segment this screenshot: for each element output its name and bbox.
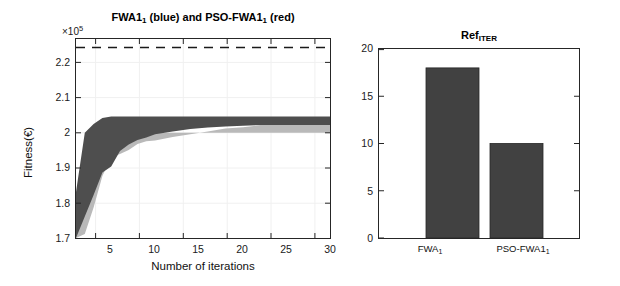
right-ytick-0: 0: [351, 232, 373, 244]
left-plot-area: [75, 38, 331, 239]
left-ytick-3-text: 1.9: [55, 161, 70, 173]
left-title-part2: (blue) and PSO-FWA1: [146, 11, 262, 23]
right-ytick-5-text: 5: [367, 185, 373, 197]
left-ytick-2: 1.8: [34, 197, 70, 209]
right-ytick-15-text: 15: [361, 90, 373, 102]
left-title-part1: FWA1: [111, 11, 142, 23]
cat1-sub: 1: [438, 248, 442, 255]
left-ytick-4: 2: [34, 126, 70, 138]
left-xtick-10: 10: [139, 243, 169, 255]
x-axis-label-text: Number of iterations: [151, 260, 255, 272]
cat2-main: PSO-FWA1: [496, 243, 545, 254]
right-chart-title: RefITER: [378, 29, 580, 43]
right-chart-panel: RefITER 0 5 10 15 20 FWA1 PSO-FWA11: [345, 0, 620, 286]
left-ytick-5: 2.1: [34, 91, 70, 103]
y-axis-label-text: Fitness(€): [22, 127, 34, 178]
left-plot-svg: [76, 39, 330, 238]
right-ytick-10: 10: [351, 137, 373, 149]
left-xtick-20: 20: [227, 243, 257, 255]
exponent-prefix: ×10: [62, 26, 79, 37]
right-title-main: Ref: [461, 29, 479, 41]
right-category-label-2: PSO-FWA11: [473, 243, 573, 255]
left-title-part3: (red): [267, 11, 295, 23]
left-xtick-25-text: 25: [280, 243, 292, 255]
left-chart-panel: FWA11 (blue) and PSO-FWA11 (red) ×105 Fi…: [0, 0, 345, 286]
bar-pso-fwa1: [490, 144, 543, 239]
left-xtick-15-text: 15: [192, 243, 204, 255]
left-xtick-5: 5: [95, 243, 125, 255]
right-plot-svg: [379, 49, 579, 238]
left-xtick-30: 30: [315, 243, 345, 255]
right-ytick-5: 5: [351, 185, 373, 197]
cat2-sub: 1: [546, 248, 550, 255]
left-xtick-15: 15: [183, 243, 213, 255]
left-xtick-20-text: 20: [236, 243, 248, 255]
right-plot-area: [378, 48, 580, 239]
left-x-axis-label: Number of iterations: [75, 260, 331, 272]
left-xtick-25: 25: [271, 243, 301, 255]
band-fwa1: [76, 117, 330, 239]
left-xtick-30-text: 30: [324, 243, 336, 255]
left-ytick-6: 2.2: [34, 56, 70, 68]
right-ytick-20-text: 20: [361, 42, 373, 54]
cat1-main: FWA: [418, 243, 439, 254]
left-chart-title: FWA11 (blue) and PSO-FWA11 (red): [75, 11, 331, 25]
left-ytick-6-text: 2.2: [55, 56, 70, 68]
right-title-sub: ITER: [479, 34, 497, 43]
right-ytick-20: 20: [351, 42, 373, 54]
left-xtick-5-text: 5: [107, 243, 113, 255]
right-ytick-15: 15: [351, 90, 373, 102]
left-ytick-1: 1.7: [34, 232, 70, 244]
right-category-label-1: FWA1: [387, 243, 473, 255]
exponent-power: 5: [79, 24, 83, 33]
right-ytick-10-text: 10: [361, 137, 373, 149]
left-ytick-2-text: 1.8: [55, 197, 70, 209]
figure-root: FWA11 (blue) and PSO-FWA11 (red) ×105 Fi…: [0, 0, 620, 286]
left-ytick-3: 1.9: [34, 161, 70, 173]
left-xtick-10-text: 10: [148, 243, 160, 255]
left-y-axis-label: Fitness(€): [22, 127, 34, 178]
bar-fwa1: [426, 68, 479, 238]
right-ytick-0-text: 0: [367, 232, 373, 244]
left-ytick-4-text: 2: [64, 126, 70, 138]
left-ytick-1-text: 1.7: [55, 232, 70, 244]
left-axis-exponent: ×105: [62, 24, 83, 37]
left-ytick-5-text: 2.1: [55, 91, 70, 103]
